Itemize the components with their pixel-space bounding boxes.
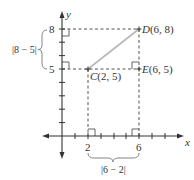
- right-angle-x6: [132, 129, 139, 136]
- x-axis-arrow-right: [177, 134, 184, 139]
- x-tick-label-6: 6: [136, 141, 142, 153]
- right-angle-y8: [62, 29, 69, 36]
- right-angle-x2: [88, 129, 95, 136]
- right-angle-y5: [62, 62, 69, 69]
- point-d-name: D: [141, 23, 150, 35]
- point-c-coords: (2, 5): [97, 70, 121, 83]
- y-axis-arrow-up: [60, 11, 65, 18]
- point-c-label: C(2, 5): [90, 70, 122, 83]
- horizontal-brace-label: |6 − 2|: [101, 164, 126, 175]
- right-angle-e: [132, 62, 139, 69]
- point-d-label: D(6, 8): [141, 23, 174, 36]
- distance-formula-figure: y x 8 5 2 6 |8 − 5| |6 − 2| D(6, 8) E(6,…: [0, 0, 194, 180]
- y-tick-label-8: 8: [49, 23, 55, 35]
- x-tick-label-2: 2: [85, 141, 91, 153]
- y-axis-label: y: [65, 8, 71, 20]
- y-tick-label-5: 5: [49, 63, 55, 75]
- dashed-guides: [62, 29, 139, 136]
- vertical-brace-label: |8 − 5|: [12, 44, 37, 55]
- point-d-coords: (6, 8): [150, 23, 174, 36]
- x-axis-label: x: [184, 136, 190, 148]
- x-axis-arrow-left: [42, 134, 49, 139]
- point-e-marker: [137, 67, 142, 72]
- vertical-brace: [38, 30, 47, 69]
- segment-cd: [88, 29, 139, 69]
- point-e-coords: (6, 5): [149, 63, 173, 76]
- right-angle-markers: [62, 29, 139, 136]
- y-axis-arrow-down: [60, 152, 65, 159]
- point-e-label: E(6, 5): [141, 63, 173, 76]
- horizontal-brace: [88, 153, 139, 162]
